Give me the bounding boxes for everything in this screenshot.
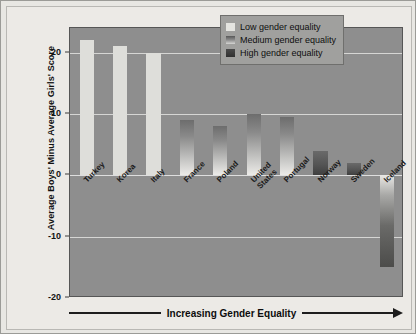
arrow-head-icon (393, 308, 403, 318)
bar-united-states (247, 114, 261, 175)
legend-swatch-medium-icon (226, 36, 235, 44)
bar-iceland (380, 175, 394, 267)
arrow-line-left (69, 312, 161, 314)
legend-item: High gender equality (226, 46, 336, 59)
bar-turkey (80, 40, 94, 175)
legend-label-medium: Medium gender equality (240, 35, 336, 45)
legend-label-low: Low gender equality (240, 22, 321, 32)
bar-italy (146, 53, 160, 176)
y-axis-tick-label: 0 (33, 169, 61, 179)
legend-label-high: High gender equality (240, 48, 323, 58)
legend-item: Medium gender equality (226, 33, 336, 46)
x-axis-annotation: Increasing Gender Equality (69, 304, 403, 322)
chart-figure: Average Boys' Minus Average Girls' Score… (0, 0, 416, 334)
y-axis-tick-label: -10 (33, 231, 61, 241)
legend-item: Low gender equality (226, 20, 336, 33)
figure-inner-panel: Average Boys' Minus Average Girls' Score… (6, 6, 412, 330)
arrow-line-right (302, 312, 394, 314)
y-axis-tick-label: 20 (33, 47, 61, 57)
gridline (70, 237, 402, 238)
bar-korea (113, 46, 127, 175)
legend-swatch-high-icon (226, 49, 235, 57)
x-axis-title: Increasing Gender Equality (161, 308, 302, 319)
y-axis-tick-label: 10 (33, 108, 61, 118)
chart-legend: Low gender equality Medium gender equali… (220, 15, 344, 65)
y-axis-tick-label: -20 (33, 292, 61, 302)
legend-swatch-low-icon (226, 23, 235, 31)
y-axis-title: Average Boys' Minus Average Girls' Score (46, 28, 56, 248)
